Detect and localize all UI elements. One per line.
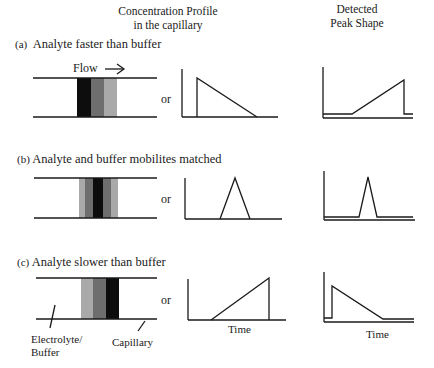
profile-plot-c <box>188 278 286 320</box>
band-black <box>77 78 91 117</box>
capillary-a <box>33 78 157 117</box>
band-light-gray <box>81 278 93 319</box>
capillary-c <box>36 278 157 331</box>
detected-plot-b <box>324 171 415 220</box>
band-light-gray <box>79 178 85 218</box>
band-dark-gray <box>91 78 104 117</box>
electrophoresis-diagram <box>0 0 434 368</box>
callout-line-electrolyte <box>50 305 55 328</box>
band-light-gray <box>111 178 118 218</box>
band-black <box>93 178 103 218</box>
band-dark-gray <box>93 278 106 319</box>
band-black <box>106 278 119 319</box>
detected-plot-a <box>323 67 413 118</box>
band-dark-gray <box>103 178 111 218</box>
band-light-gray <box>104 78 117 117</box>
band-dark-gray <box>85 178 93 218</box>
capillary-b <box>34 178 157 218</box>
callout-line-capillary <box>138 321 145 331</box>
profile-plot-b <box>185 178 282 219</box>
flow-arrow-icon <box>105 64 124 74</box>
detected-plot-c <box>324 272 414 322</box>
profile-plot-a <box>182 69 278 117</box>
